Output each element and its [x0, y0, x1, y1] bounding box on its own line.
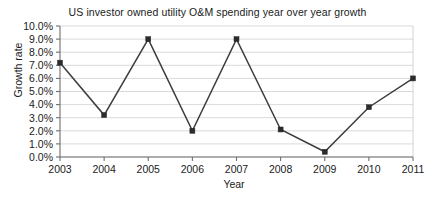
y-tick-label: 10.0%: [23, 20, 53, 32]
y-axis-ticks: 0.0%1.0%2.0%3.0%4.0%5.0%6.0%7.0%8.0%9.0%…: [23, 20, 60, 163]
y-tick-label: 4.0%: [29, 98, 53, 110]
y-tick-label: 3.0%: [29, 112, 53, 124]
data-point-marker: [190, 128, 195, 133]
x-tick-label: 2003: [48, 163, 72, 175]
x-tick-label: 2007: [225, 163, 249, 175]
y-tick-label: 7.0%: [29, 59, 53, 71]
x-axis-ticks: 200320042005200620072008200920102011: [48, 157, 424, 175]
y-tick-label: 9.0%: [29, 33, 53, 45]
x-tick-label: 2008: [269, 163, 293, 175]
y-tick-label: 5.0%: [29, 85, 53, 97]
data-point-marker: [146, 37, 151, 42]
x-tick-label: 2004: [92, 163, 116, 175]
data-point-marker: [322, 149, 327, 154]
y-tick-label: 8.0%: [29, 46, 53, 58]
y-tick-label: 2.0%: [29, 125, 53, 137]
y-tick-label: 0.0%: [29, 151, 53, 163]
data-point-marker: [102, 113, 107, 118]
chart-container: US investor owned utility O&M spending y…: [0, 0, 435, 197]
x-tick-label: 2005: [137, 163, 161, 175]
gridlines: [60, 26, 413, 157]
data-point-marker: [278, 127, 283, 132]
x-tick-label: 2011: [402, 163, 425, 175]
data-point-marker: [234, 37, 239, 42]
plot-area: 0.0%1.0%2.0%3.0%4.0%5.0%6.0%7.0%8.0%9.0%…: [0, 0, 435, 197]
data-point-marker: [411, 76, 416, 81]
data-point-marker: [58, 60, 63, 65]
x-tick-label: 2006: [181, 163, 205, 175]
series-line: [60, 39, 413, 152]
data-point-marker: [366, 105, 371, 110]
data-series: [58, 37, 416, 155]
y-tick-label: 6.0%: [29, 72, 53, 84]
x-tick-label: 2009: [313, 163, 337, 175]
x-tick-label: 2010: [357, 163, 381, 175]
y-tick-label: 1.0%: [29, 138, 53, 150]
